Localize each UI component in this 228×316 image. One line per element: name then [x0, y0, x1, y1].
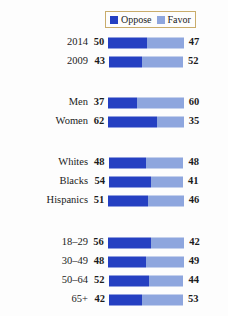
bar-segment-oppose	[108, 116, 156, 127]
chart-row: Blacks5441	[0, 172, 228, 191]
value-label-favor: 42	[189, 237, 211, 248]
legend-label-favor: Favor	[168, 15, 191, 25]
bar-segment-oppose	[109, 176, 151, 187]
value-label-favor: 53	[188, 294, 210, 305]
value-label-oppose: 37	[82, 97, 104, 108]
category-label: 2009	[0, 56, 88, 67]
category-label: 18–29	[0, 237, 88, 248]
bar-segment-favor	[146, 157, 183, 168]
chart-group-age: 18–29564230–49484950–64524465+4253	[0, 233, 228, 309]
bar-segment-favor	[142, 56, 183, 67]
value-label-favor: 44	[188, 275, 210, 286]
bar-segment-oppose	[108, 256, 145, 267]
value-label-favor: 41	[188, 176, 210, 187]
stacked-bar	[108, 97, 184, 108]
category-label: 30–49	[0, 256, 88, 267]
category-label: Hispanics	[0, 195, 88, 206]
stacked-bar	[108, 237, 184, 248]
chart-legend: Oppose Favor	[105, 11, 196, 28]
stacked-bar	[108, 116, 184, 127]
legend-entry-oppose: Oppose	[110, 15, 152, 25]
stacked-bar	[109, 294, 183, 305]
chart-group-gender: Men3760Women6235	[0, 93, 228, 131]
value-label-favor: 52	[188, 56, 210, 67]
chart-row: 20145047	[0, 33, 228, 52]
value-label-favor: 60	[189, 97, 211, 108]
chart-row: 65+4253	[0, 290, 228, 309]
value-label-oppose: 62	[82, 116, 104, 127]
legend-entry-favor: Favor	[157, 15, 191, 25]
category-label: Women	[0, 116, 88, 127]
chart-row: 30–494849	[0, 252, 228, 271]
legend-label-oppose: Oppose	[121, 15, 152, 25]
bar-segment-favor	[151, 176, 183, 187]
value-label-oppose: 52	[83, 275, 105, 286]
category-label: 2014	[0, 37, 88, 48]
stacked-bar	[109, 56, 183, 67]
chart-group-year: 2014504720094352	[0, 33, 228, 71]
chart-row: Hispanics5146	[0, 191, 228, 210]
category-label: Men	[0, 97, 88, 108]
chart-row: 50–645244	[0, 271, 228, 290]
chart-row: 20094352	[0, 52, 228, 71]
stacked-bar	[108, 195, 184, 206]
chart-row: Whites4848	[0, 153, 228, 172]
value-label-oppose: 48	[83, 157, 105, 168]
chart-row: Men3760	[0, 93, 228, 112]
bar-segment-favor	[149, 275, 183, 286]
bar-segment-oppose	[109, 157, 146, 168]
bar-segment-favor	[142, 294, 183, 305]
bar-segment-oppose	[109, 294, 142, 305]
value-label-oppose: 48	[82, 256, 104, 267]
stacked-bar	[109, 275, 184, 286]
chart-row: Women6235	[0, 112, 228, 131]
value-label-oppose: 54	[83, 176, 105, 187]
bar-segment-favor	[137, 97, 184, 108]
stacked-bar	[108, 37, 184, 48]
legend-swatch-favor	[157, 16, 165, 24]
bar-segment-favor	[147, 37, 184, 48]
value-label-oppose: 50	[82, 37, 104, 48]
category-label: Blacks	[0, 176, 88, 187]
bar-segment-oppose	[108, 37, 147, 48]
value-label-oppose: 56	[82, 237, 104, 248]
bar-segment-oppose	[108, 237, 152, 248]
category-label: 65+	[0, 294, 88, 305]
bar-segment-oppose	[108, 195, 148, 206]
value-label-favor: 49	[189, 256, 211, 267]
bar-segment-oppose	[109, 275, 150, 286]
bar-segment-oppose	[108, 97, 137, 108]
bar-segment-favor	[151, 237, 184, 248]
category-label: 50–64	[0, 275, 88, 286]
value-label-oppose: 42	[83, 294, 105, 305]
value-label-favor: 48	[188, 157, 210, 168]
value-label-favor: 46	[189, 195, 211, 206]
stacked-bar	[108, 256, 184, 267]
bar-segment-favor	[146, 256, 184, 267]
value-label-oppose: 51	[82, 195, 104, 206]
value-label-oppose: 43	[83, 56, 105, 67]
category-label: Whites	[0, 157, 88, 168]
legend-swatch-oppose	[110, 16, 118, 24]
value-label-favor: 35	[189, 116, 211, 127]
chart-row: 18–295642	[0, 233, 228, 252]
bar-segment-oppose	[109, 56, 143, 67]
bar-segment-favor	[148, 195, 184, 206]
stacked-bar-chart: Oppose Favor 2014504720094352Men3760Wome…	[0, 0, 228, 316]
stacked-bar	[109, 157, 184, 168]
chart-group-race: Whites4848Blacks5441Hispanics5146	[0, 153, 228, 210]
value-label-favor: 47	[189, 37, 211, 48]
bar-segment-favor	[157, 116, 184, 127]
stacked-bar	[109, 176, 183, 187]
